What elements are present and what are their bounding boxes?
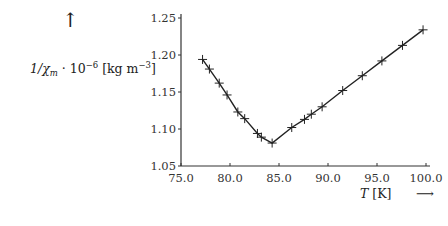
y-tick-label: 1.15: [150, 85, 176, 99]
plus-marker-icon: [215, 79, 224, 88]
x-tick-label: 85.0: [266, 171, 292, 185]
plus-marker-icon: [198, 55, 207, 64]
axes: [181, 14, 430, 166]
y-tick-label: 1.10: [150, 122, 176, 136]
x-tick-label: 95.0: [364, 171, 390, 185]
x-tick-label: 75.0: [168, 171, 194, 185]
plus-marker-icon: [205, 65, 214, 74]
x-tick-label: 90.0: [315, 171, 341, 185]
y-axis-arrow-icon: ↑: [62, 8, 79, 32]
y-tick-label: 1.25: [150, 11, 176, 25]
y-tick-label: 1.05: [150, 159, 176, 173]
plus-marker-icon: [223, 90, 232, 99]
series-line: [203, 30, 424, 143]
x-axis-label: T [K]: [360, 186, 391, 201]
y-axis-label: 1/χm · 10−6 [kg m−3]: [30, 60, 156, 78]
x-axis-arrow-icon: ⟶: [416, 186, 434, 201]
data-series: [198, 25, 428, 147]
x-tick-label: 100.0: [410, 171, 443, 185]
x-tick-label: 80.0: [217, 171, 243, 185]
ticks: 75.080.085.090.095.0100.01.051.101.151.2…: [150, 11, 442, 185]
